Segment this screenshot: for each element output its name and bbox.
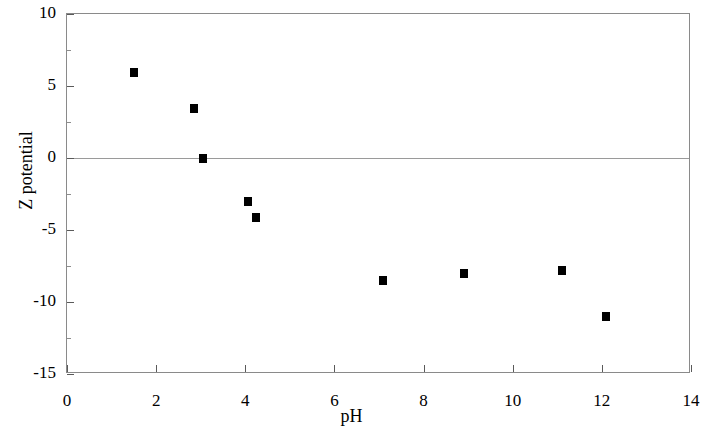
- y-axis-title: Z potential: [16, 101, 37, 241]
- chart-figure: 02468101214 1050-5-10-15 Z potential pH: [0, 0, 703, 436]
- x-axis-title: pH: [0, 406, 703, 427]
- y-axis-tick-label: -15: [8, 364, 56, 381]
- y-axis-tick-label: -10: [8, 292, 56, 309]
- y-axis-tick-label: 5: [8, 76, 56, 93]
- y-axis-tick-label: 10: [8, 4, 56, 21]
- y-tick-label-group: 1050-5-10-15: [0, 0, 703, 436]
